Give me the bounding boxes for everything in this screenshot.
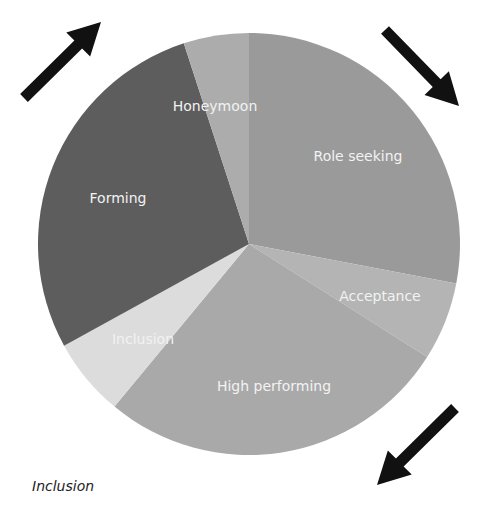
slice-label: Role seeking bbox=[314, 148, 403, 164]
slice-label: Acceptance bbox=[339, 288, 420, 304]
chart-caption: Inclusion bbox=[32, 478, 94, 494]
slice-label: Honeymoon bbox=[173, 98, 258, 114]
slice-label: Inclusion bbox=[112, 331, 174, 347]
pie-chart bbox=[0, 0, 479, 517]
arrow-up-right-icon bbox=[20, 22, 101, 102]
arrow-down-left-icon bbox=[377, 404, 459, 485]
slice-label: Forming bbox=[90, 190, 147, 206]
slice-label: High performing bbox=[217, 378, 331, 394]
